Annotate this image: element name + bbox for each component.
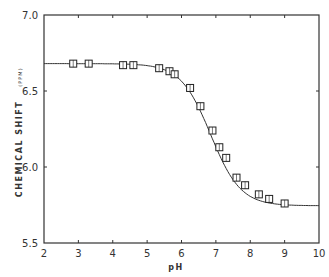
y-tick-label: 6.0 xyxy=(22,162,38,173)
x-tick-label: 10 xyxy=(313,248,326,259)
x-axis-title: pH xyxy=(168,263,183,272)
y-axis-unit: (PPM) xyxy=(17,67,23,86)
y-tick-label: 7.0 xyxy=(22,10,38,21)
x-tick-label: 2 xyxy=(41,248,47,259)
plot-frame xyxy=(44,15,319,243)
data-points xyxy=(70,60,288,207)
fit-curve xyxy=(44,64,319,206)
y-tick-label: 6.5 xyxy=(22,86,38,97)
chemical-shift-vs-ph-chart: 2345678910 5.56.06.57.0 pH CHEMICAL SHIF… xyxy=(0,0,329,277)
y-axis-ticks: 5.56.06.57.0 xyxy=(22,10,319,249)
x-tick-label: 4 xyxy=(110,248,116,259)
x-axis-ticks: 2345678910 xyxy=(41,15,326,259)
y-tick-label: 5.5 xyxy=(22,238,38,249)
x-tick-label: 9 xyxy=(281,248,287,259)
y-axis-title-group: CHEMICAL SHIFT (PPM) xyxy=(15,67,24,197)
x-tick-label: 5 xyxy=(144,248,150,259)
x-tick-label: 3 xyxy=(75,248,81,259)
x-tick-label: 6 xyxy=(178,248,184,259)
x-tick-label: 7 xyxy=(213,248,219,259)
x-tick-label: 8 xyxy=(247,248,253,259)
y-axis-title: CHEMICAL SHIFT xyxy=(15,101,24,197)
